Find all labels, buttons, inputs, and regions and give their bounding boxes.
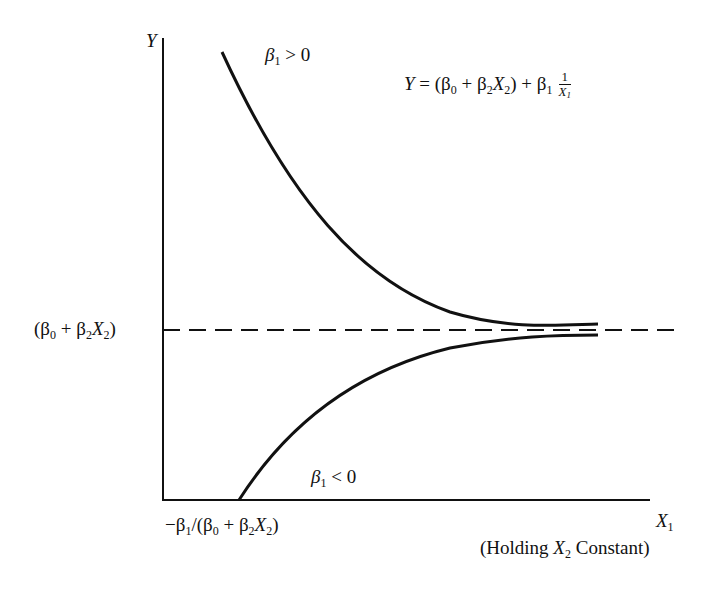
positive-curve-label: β1 > 0 [265, 44, 310, 69]
asymptote-value-label: (β0 + β2X2) [34, 318, 116, 343]
fraction-one-over-x1: 1X1 [559, 70, 571, 102]
negative-beta-curve [239, 335, 598, 500]
negative-curve-label: β1 < 0 [311, 466, 356, 491]
equation-label: Y = (β0 + β2X2) + β11X1 [404, 70, 571, 102]
x-intercept-label: −β1/(β0 + β2X2) [165, 514, 279, 539]
y-axis-label: Y [146, 30, 157, 52]
holding-constant-note: (Holding X2 Constant) [480, 537, 650, 562]
x-axis-label: X1 [656, 510, 674, 535]
diagram-canvas [0, 0, 714, 598]
